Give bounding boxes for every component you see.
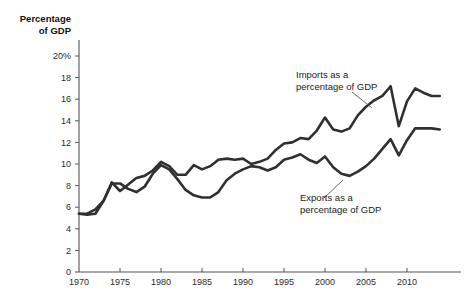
y-tick-label: 2 xyxy=(66,246,71,256)
y-axis-title-line1: Percentage xyxy=(20,13,71,24)
y-tick-label: 12 xyxy=(61,138,71,148)
x-tick-label: 1980 xyxy=(151,277,171,287)
y-tick-label: 20% xyxy=(53,51,71,61)
y-tick-label: 8 xyxy=(66,181,71,191)
x-tick-label: 1990 xyxy=(233,277,253,287)
x-tick-label: 1995 xyxy=(274,277,294,287)
exports-series-line xyxy=(79,128,440,214)
y-tick-label: 6 xyxy=(66,202,71,212)
annotations-group: Imports as apercentage of GDPExports as … xyxy=(296,69,381,215)
exports-annotation-line1: Exports as a xyxy=(300,192,354,203)
x-tick-label: 1970 xyxy=(69,277,89,287)
x-tick-label: 2005 xyxy=(356,277,376,287)
x-tick-label: 2010 xyxy=(397,277,417,287)
y-tick-label: 14 xyxy=(61,116,71,126)
y-axis-title-line2: of GDP xyxy=(39,25,72,36)
y-axis-ticks: 20%181614121086420 xyxy=(53,51,79,277)
chart-container: Percentage of GDP 20%181614121086420 197… xyxy=(0,0,474,307)
imports-annotation-line2: percentage of GDP xyxy=(296,81,377,92)
x-axis-ticks: 197019751980198519901995200020052010 xyxy=(69,268,417,287)
x-tick-label: 1975 xyxy=(110,277,130,287)
data-series-group xyxy=(79,86,440,215)
y-tick-label: 0 xyxy=(66,267,71,277)
y-tick-label: 18 xyxy=(61,73,71,83)
x-tick-label: 1985 xyxy=(192,277,212,287)
imports-annotation-leader-line xyxy=(352,92,372,108)
y-tick-label: 4 xyxy=(66,224,71,234)
exports-annotation-line2: percentage of GDP xyxy=(300,204,381,215)
imports-exports-gdp-line-chart: Percentage of GDP 20%181614121086420 197… xyxy=(0,0,474,307)
y-tick-label: 16 xyxy=(61,94,71,104)
x-tick-label: 2000 xyxy=(315,277,335,287)
imports-series-line xyxy=(79,86,440,213)
y-tick-label: 10 xyxy=(61,159,71,169)
imports-annotation-line1: Imports as a xyxy=(296,69,349,80)
